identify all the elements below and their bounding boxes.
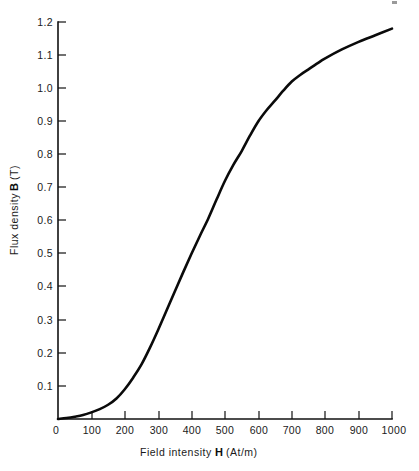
y-tick-label: 0.3 (37, 314, 53, 326)
y-axis-title-prefix: Flux density (8, 193, 20, 255)
y-tick-label: 1.0 (37, 82, 53, 94)
x-tick-label: 500 (216, 424, 235, 436)
chart-canvas: 1.2 1.1 1.0 0.9 0.8 0.7 0.6 0.5 0.4 0.3 … (0, 0, 419, 471)
x-tick-label: 600 (250, 424, 269, 436)
y-tick-label: 0.5 (37, 247, 53, 259)
y-tick-label: 1.1 (37, 49, 53, 61)
y-tick-label: 0.8 (37, 148, 53, 160)
y-tick-label: 0.7 (37, 181, 53, 193)
bh-curve-line (58, 29, 392, 419)
y-tick-label: 1.2 (37, 16, 53, 28)
y-tick-label: 0.9 (37, 115, 53, 127)
x-tick-label: 1000 (382, 424, 407, 436)
x-tick-label: 200 (116, 424, 135, 436)
y-axis-title-symbol: B (8, 183, 20, 191)
x-tick-label: 800 (316, 424, 335, 436)
x-axis-title-prefix: Field intensity (140, 446, 212, 458)
x-axis-title-symbol: H (215, 446, 223, 458)
x-tick-label: 900 (350, 424, 369, 436)
y-tick-label: 0.1 (37, 380, 53, 392)
y-tick-label: 0.4 (37, 280, 53, 292)
x-tick-label: 100 (83, 424, 102, 436)
x-tick-labels: 100 200 300 400 500 600 700 800 900 1000 (83, 424, 407, 436)
scan-speck (392, 1, 397, 4)
bh-curve-chart: 1.2 1.1 1.0 0.9 0.8 0.7 0.6 0.5 0.4 0.3 … (0, 0, 419, 471)
y-axis-ticks (58, 22, 66, 386)
y-tick-label: 0.6 (37, 214, 53, 226)
x-tick-label: 400 (183, 424, 202, 436)
x-axis-title-units: (At/m) (226, 446, 258, 458)
y-tick-labels: 1.2 1.1 1.0 0.9 0.8 0.7 0.6 0.5 0.4 0.3 … (37, 16, 53, 392)
y-axis-title: Flux density B (T) (8, 165, 20, 255)
origin-tick-label: 0 (53, 424, 59, 436)
y-tick-label: 0.2 (37, 347, 53, 359)
x-tick-label: 300 (150, 424, 169, 436)
x-tick-label: 700 (283, 424, 302, 436)
y-axis-title-units: (T) (8, 165, 20, 180)
x-axis-title: Field intensity H (At/m) (140, 446, 258, 458)
x-axis-ticks (92, 411, 392, 419)
